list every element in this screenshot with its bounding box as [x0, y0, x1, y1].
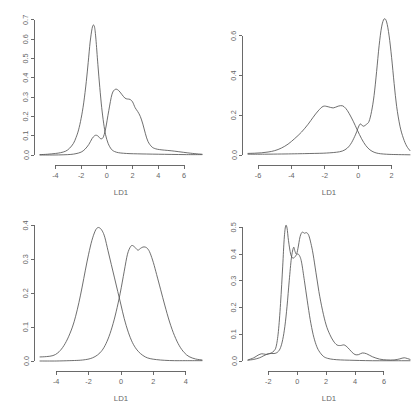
density-curve-group-1: [248, 106, 410, 155]
plot-canvas-bottom-left: 0.00.10.20.30.4-4-2024LD1: [0, 206, 208, 412]
plot-canvas-bottom-right: 0.00.10.20.30.40.5-20246LD1: [208, 206, 416, 412]
density-plot-figure: 0.00.10.20.30.40.50.60.7-4-20246LD1 0.00…: [0, 0, 417, 412]
x-axis-title-bottom-right: LD1: [322, 394, 336, 403]
density-panel-bottom-right: 0.00.10.20.30.40.5-20246LD1: [208, 206, 416, 412]
x-axis-bottom-left: -4-2024: [53, 371, 188, 386]
x-axis-top-right: -6-4-202: [255, 165, 394, 180]
x-tick-label: 4: [156, 171, 160, 180]
y-axis-bottom-left: 0.00.10.20.30.4: [22, 220, 35, 366]
x-tick-label: 2: [151, 377, 155, 386]
y-tick-label: 0.0: [230, 356, 239, 366]
y-tick-label: 0.0: [22, 356, 31, 366]
x-tick-label: 2: [390, 171, 394, 180]
y-tick-label: 0.2: [230, 110, 239, 120]
plot-canvas-top-right: 0.00.20.40.6-6-4-202LD1: [208, 0, 416, 206]
x-tick-label: 6: [182, 171, 186, 180]
x-axis-bottom-right: -20246: [265, 371, 386, 386]
y-tick-label: 0.3: [22, 92, 31, 102]
density-curve-group-2: [40, 89, 202, 155]
y-axis-top-right: 0.00.20.40.6: [230, 31, 243, 160]
x-tick-label: -6: [255, 171, 262, 180]
y-axis-bottom-right: 0.00.10.20.30.40.5: [230, 222, 243, 366]
x-axis-title-top-left: LD1: [114, 188, 128, 197]
y-tick-label: 0.6: [230, 31, 239, 41]
x-tick-label: -2: [85, 377, 92, 386]
y-tick-label: 0.4: [22, 73, 31, 83]
y-tick-label: 0.4: [230, 70, 239, 80]
y-tick-label: 0.2: [230, 302, 239, 312]
y-tick-label: 0.2: [22, 288, 31, 298]
x-tick-label: -4: [288, 171, 295, 180]
y-tick-label: 0.1: [22, 131, 31, 141]
y-tick-label: 0.6: [22, 34, 31, 44]
y-tick-label: 0.5: [230, 222, 239, 232]
y-tick-label: 0.1: [230, 329, 239, 339]
x-tick-label: 2: [131, 171, 135, 180]
y-tick-label: 0.4: [230, 249, 239, 259]
y-axis-top-left: 0.00.10.20.30.40.50.60.7: [22, 15, 35, 160]
y-tick-label: 0.0: [22, 150, 31, 160]
x-tick-label: -4: [53, 377, 60, 386]
x-tick-label: -2: [322, 171, 329, 180]
x-tick-label: -2: [265, 377, 272, 386]
density-curve-group-1: [40, 227, 202, 360]
density-curve-group-2: [248, 232, 410, 360]
density-panel-top-right: 0.00.20.40.6-6-4-202LD1: [208, 0, 416, 206]
x-tick-label: 4: [353, 377, 357, 386]
x-tick-label: 0: [356, 171, 360, 180]
x-tick-label: 2: [324, 377, 328, 386]
density-panel-bottom-left: 0.00.10.20.30.4-4-2024LD1: [0, 206, 208, 412]
y-tick-label: 0.7: [22, 15, 31, 25]
density-curve-group-1: [248, 225, 410, 361]
x-tick-label: 0: [105, 171, 109, 180]
y-tick-label: 0.5: [22, 53, 31, 63]
plot-canvas-top-left: 0.00.10.20.30.40.50.60.7-4-20246LD1: [0, 0, 208, 206]
y-tick-label: 0.3: [22, 254, 31, 264]
x-tick-label: 6: [382, 377, 386, 386]
x-axis-title-bottom-left: LD1: [114, 394, 128, 403]
x-axis-top-left: -4-20246: [52, 165, 186, 180]
x-tick-label: 0: [295, 377, 299, 386]
density-curve-group-1: [40, 25, 202, 155]
x-tick-label: -2: [78, 171, 85, 180]
x-tick-label: -4: [52, 171, 59, 180]
x-tick-label: 4: [184, 377, 188, 386]
density-panel-top-left: 0.00.10.20.30.40.50.60.7-4-20246LD1: [0, 0, 208, 206]
x-axis-title-top-right: LD1: [322, 188, 336, 197]
density-curve-group-2: [248, 19, 410, 155]
y-tick-label: 0.4: [22, 220, 31, 230]
y-tick-label: 0.0: [230, 150, 239, 160]
y-tick-label: 0.2: [22, 111, 31, 121]
density-curve-group-2: [40, 245, 202, 361]
x-tick-label: 0: [119, 377, 123, 386]
y-tick-label: 0.1: [22, 322, 31, 332]
y-tick-label: 0.3: [230, 276, 239, 286]
